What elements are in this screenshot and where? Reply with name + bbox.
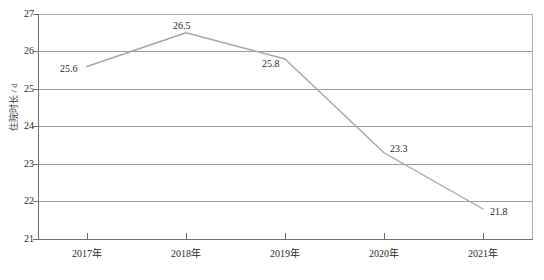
plot-area xyxy=(38,14,533,239)
x-tick-label-2017: 2017年 xyxy=(52,248,122,260)
y-tick-label-21: 21 xyxy=(10,234,34,244)
chart-figure: 住院时长 / d 27 26 25 24 23 22 21 2017年 2018… xyxy=(0,0,544,280)
y-tick-label-26: 26 xyxy=(10,46,34,56)
gridline-22 xyxy=(38,201,533,202)
y-tick-label-24: 24 xyxy=(10,121,34,131)
gridline-25 xyxy=(38,89,533,90)
x-tick-mark-2021 xyxy=(483,233,484,239)
x-tick-label-2021: 2021年 xyxy=(448,248,518,260)
data-label-2021: 21.8 xyxy=(490,206,508,217)
x-tick-mark-2017 xyxy=(87,233,88,239)
x-tick-label-2020: 2020年 xyxy=(349,248,419,260)
data-label-2017: 25.6 xyxy=(60,63,78,74)
y-tick-label-27: 27 xyxy=(10,9,34,19)
y-axis-title: 住院时长 / d xyxy=(7,57,21,157)
x-tick-mark-2020 xyxy=(384,233,385,239)
plot-frame-top xyxy=(38,14,533,15)
data-label-2018: 26.5 xyxy=(173,20,191,31)
x-axis-line xyxy=(38,239,533,240)
x-tick-mark-2018 xyxy=(186,233,187,239)
y-tick-label-25: 25 xyxy=(10,84,34,94)
y-tick-label-23: 23 xyxy=(10,159,34,169)
y-tick-label-22: 22 xyxy=(10,196,34,206)
x-tick-label-2018: 2018年 xyxy=(151,248,221,260)
y-axis-line xyxy=(38,14,39,240)
data-label-2020: 23.3 xyxy=(390,143,408,154)
x-tick-label-2019: 2019年 xyxy=(250,248,320,260)
gridline-24 xyxy=(38,126,533,127)
data-label-2019: 25.8 xyxy=(262,58,280,69)
gridline-26 xyxy=(38,51,533,52)
gridline-23 xyxy=(38,164,533,165)
x-tick-mark-2019 xyxy=(285,233,286,239)
